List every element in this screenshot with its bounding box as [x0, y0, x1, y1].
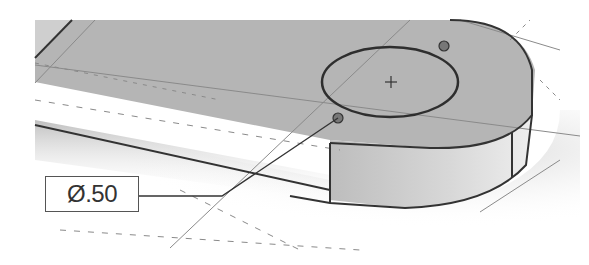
cad-viewport[interactable] — [0, 0, 589, 265]
grip-point-top[interactable] — [439, 41, 449, 51]
top-face[interactable] — [35, 20, 535, 148]
diameter-dimension-label[interactable]: Ø.50 — [45, 176, 139, 212]
diameter-dimension-text: Ø.50 — [67, 180, 117, 208]
